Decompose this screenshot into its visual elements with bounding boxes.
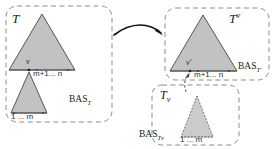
source-node-label-v: v	[26, 58, 30, 66]
source-upper-leaf-range: m+1... n	[33, 70, 62, 78]
target-node-vprime-dot	[189, 70, 192, 73]
target-lower-leaf-range: 1 ... m	[180, 136, 202, 144]
target-upper-bas-label: BAST′	[238, 62, 262, 73]
target-lower-bas-base: BAS	[139, 129, 157, 139]
target-upper-triangle	[170, 15, 237, 71]
transform-arrow-shaft	[114, 25, 161, 35]
panel-title-target-lower: Tv	[160, 89, 170, 105]
leaf-tick	[42, 112, 44, 114]
target-node-label-vprime: v′	[186, 59, 191, 67]
target-upper-bas-base: BAS	[238, 61, 256, 71]
leaf-tick	[67, 69, 69, 71]
source-bas-base: BAS	[69, 94, 87, 104]
transform-arrow-head	[155, 30, 164, 36]
source-bas-label: BAST	[69, 95, 91, 106]
target-lower-triangle	[181, 96, 213, 137]
target-lower-bas-label: BASTv	[139, 130, 164, 141]
target-upper-leaf-range: m+1... n	[194, 71, 223, 79]
source-bas-sub: T	[87, 99, 91, 106]
panel-title-target-upper: Tv	[229, 11, 240, 25]
panel-title-source: T	[12, 12, 19, 25]
source-lower-triangle	[11, 72, 47, 113]
source-lower-leaf-range: 1 ... m	[11, 113, 33, 121]
target-lower-bas-sub: Tv	[157, 134, 163, 141]
leaf-tick	[228, 70, 230, 72]
target-lower-title-script: v	[167, 95, 171, 104]
attach-arrow-head	[186, 73, 190, 78]
figure-canvas: T v m+1... n 1 ... m BAST Tv v′ m+1... n…	[0, 0, 275, 149]
target-upper-title-script: v	[236, 10, 240, 20]
target-upper-bas-sub: T′	[256, 66, 261, 73]
target-lower-title-base: T	[160, 88, 167, 102]
